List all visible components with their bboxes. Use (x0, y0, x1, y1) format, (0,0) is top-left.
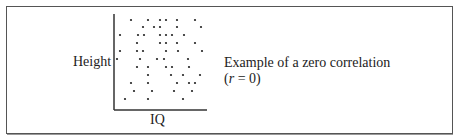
x-axis-label: IQ (150, 112, 165, 128)
data-point (147, 74, 149, 76)
data-point (170, 74, 172, 76)
data-point (183, 34, 185, 36)
data-point (147, 82, 149, 84)
data-point (151, 90, 153, 92)
data-point (194, 82, 196, 84)
data-points (116, 19, 203, 100)
data-point (182, 74, 184, 76)
data-point (182, 98, 184, 100)
data-point (165, 66, 167, 68)
data-point (119, 50, 121, 52)
data-point (176, 26, 178, 28)
data-point (143, 34, 145, 36)
data-point (165, 19, 167, 21)
data-point (188, 66, 190, 68)
caption-line-1: Example of a zero correlation (224, 55, 390, 71)
data-point (130, 19, 132, 21)
data-point (133, 90, 135, 92)
data-point (136, 42, 138, 44)
data-point (136, 50, 138, 52)
data-point (176, 19, 178, 21)
data-point (163, 58, 165, 60)
data-point (171, 34, 173, 36)
data-point (176, 42, 178, 44)
data-point (188, 82, 190, 84)
data-point (116, 58, 118, 60)
y-axis-label: Height (73, 54, 111, 70)
data-point (147, 66, 149, 68)
data-point (187, 58, 189, 60)
data-point (119, 34, 121, 36)
data-point (194, 19, 196, 21)
data-point (130, 82, 132, 84)
data-point (177, 50, 179, 52)
data-point (199, 74, 201, 76)
data-point (165, 42, 167, 44)
data-point (191, 90, 193, 92)
data-point (159, 34, 161, 36)
data-point (153, 26, 155, 28)
data-point (147, 19, 149, 21)
data-point (200, 26, 202, 28)
data-point (159, 26, 161, 28)
data-point (142, 50, 144, 52)
caption-line-2: (r = 0) (224, 71, 390, 87)
data-point (165, 34, 167, 36)
data-point (142, 26, 144, 28)
figure-caption: Example of a zero correlation (r = 0) (224, 55, 390, 87)
data-point (159, 42, 161, 44)
data-point (165, 50, 167, 52)
data-point (171, 66, 173, 68)
data-point (137, 34, 139, 36)
data-point (156, 58, 158, 60)
data-point (173, 90, 175, 92)
data-point (159, 19, 161, 21)
data-point (136, 66, 138, 68)
data-point (176, 82, 178, 84)
data-point (124, 98, 126, 100)
data-point (194, 42, 196, 44)
data-point (139, 58, 141, 60)
data-point (147, 98, 149, 100)
data-point (201, 50, 203, 52)
